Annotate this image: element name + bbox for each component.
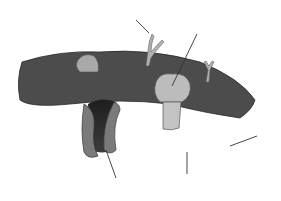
channel-protein-d: [82, 99, 120, 157]
membrane-top-surface: [18, 51, 255, 118]
cell-membrane-diagram: [0, 0, 281, 201]
